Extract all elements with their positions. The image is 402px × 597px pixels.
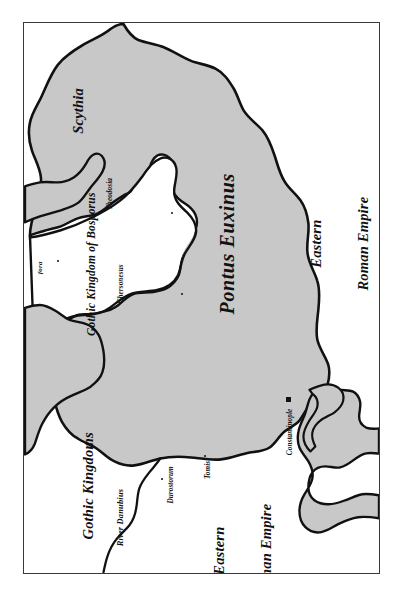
region-label-scythia: Scythia [71, 61, 87, 161]
region-label-eastern-roman-empire-south: Eastern Roman Empire [181, 491, 306, 574]
ere-south-line2: Roman Empire [260, 491, 276, 574]
map-frame: Pontus Euxinus Scythia Gothic Kingdom of… [23, 22, 380, 574]
city-label-constantinople: Constantinople [287, 373, 295, 491]
ere-east-line2: Roman Empire [357, 179, 373, 309]
river-danubius-line [104, 458, 161, 572]
city-label-theodosia: Theodosia [107, 144, 115, 244]
historical-map-figure: Pontus Euxinus Scythia Gothic Kingdom of… [0, 0, 402, 597]
city-label-chersonesus: Chersonesus [118, 229, 126, 339]
region-label-gothic-kingdoms: Gothic Kingdoms [81, 416, 97, 556]
region-label-eastern-roman-empire-east: Eastern Roman Empire [278, 179, 380, 309]
city-label-durostorum: Durostorum [168, 437, 176, 533]
city-label-fora: fora [37, 238, 45, 298]
erе-east-line1: Eastern [310, 179, 326, 309]
city-label-tomis: Tomis [205, 435, 213, 505]
region-label-gothic-kingdom-of-bosporus: Gothic Kingdom of Bosporus [85, 164, 97, 364]
ere-south-line1: Eastern [213, 491, 229, 574]
sea-label-pontus-euxinus: Pontus Euxinus [217, 149, 239, 339]
river-label-danubius: River Danubius [116, 463, 125, 573]
